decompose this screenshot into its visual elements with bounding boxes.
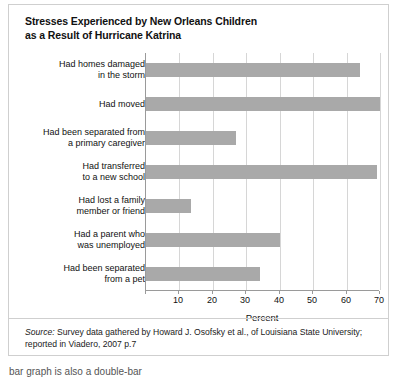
category-axis-labels: Had homes damagedin the stormHad movedHa…: [9, 50, 145, 291]
tick-mark-40: [279, 291, 280, 294]
source-text-line-2: reported in Viadero, 2007 p.7: [25, 339, 136, 349]
source-text-line-1: Survey data gathered by Howard J. Osofsk…: [55, 327, 363, 337]
tick-label-70: 70: [367, 295, 391, 305]
category-label-line: a primary caregiver: [9, 138, 145, 149]
plot-wrapper: Had homes damagedin the stormHad movedHa…: [9, 50, 388, 300]
tick-mark-30: [245, 291, 246, 294]
category-label: Had homes damagedin the storm: [9, 59, 145, 81]
tick-label-30: 30: [233, 295, 257, 305]
category-label: Had a parent whowas unemployed: [9, 229, 145, 251]
category-label-line: was unemployed: [9, 240, 145, 251]
source-label: Source:: [25, 327, 55, 337]
tick-label-20: 20: [200, 295, 224, 305]
tick-label-60: 60: [334, 295, 358, 305]
tick-mark-10: [178, 291, 179, 294]
tick-label-10: 10: [166, 295, 190, 305]
gridline-70: [380, 53, 381, 290]
category-label-line: to a new school: [9, 172, 145, 183]
chart-title-line-1: Stresses Experienced by New Orleans Chil…: [25, 14, 355, 28]
category-label: Had moved: [9, 99, 145, 110]
chart-title-line-2: as a Result of Hurricane Katrina: [25, 28, 355, 42]
chart-title: Stresses Experienced by New Orleans Chil…: [25, 14, 355, 42]
category-label-line: Had lost a family: [9, 195, 145, 206]
bar: [146, 267, 260, 281]
category-label-line: Had been separated from: [9, 127, 145, 138]
category-label-line: Had homes damaged: [9, 59, 145, 70]
tick-mark-20: [212, 291, 213, 294]
tick-mark-50: [312, 291, 313, 294]
source-note: Source: Survey data gathered by Howard J…: [25, 326, 377, 350]
category-label-line: member or friend: [9, 206, 145, 217]
tick-mark-60: [346, 291, 347, 294]
category-label-line: from a pet: [9, 274, 145, 285]
category-label: Had lost a familymember or friend: [9, 195, 145, 217]
x-axis-ticks: 10203040506070: [145, 291, 379, 313]
category-label: Had been separatedfrom a pet: [9, 263, 145, 285]
tick-mark-70: [379, 291, 380, 294]
category-label-line: in the storm: [9, 70, 145, 81]
bar: [146, 63, 360, 77]
category-label-line: Had transferred: [9, 161, 145, 172]
category-label-line: Had a parent who: [9, 229, 145, 240]
bar: [146, 131, 236, 145]
category-label-line: Had moved: [9, 99, 145, 110]
tick-label-40: 40: [267, 295, 291, 305]
bar: [146, 97, 380, 111]
chart-figure: Stresses Experienced by New Orleans Chil…: [8, 4, 389, 356]
category-label: Had transferredto a new school: [9, 161, 145, 183]
category-label-line: Had been separated: [9, 263, 145, 274]
page-text-fragment: bar graph is also a double-bar: [9, 366, 229, 378]
bar: [146, 165, 377, 179]
bar: [146, 233, 280, 247]
tick-label-50: 50: [300, 295, 324, 305]
category-label: Had been separated froma primary caregiv…: [9, 127, 145, 149]
bar: [146, 199, 191, 213]
plot-area: [145, 53, 379, 291]
bar-series: [146, 53, 379, 290]
tick-mark-0: [145, 291, 146, 294]
source-divider: [9, 318, 388, 319]
